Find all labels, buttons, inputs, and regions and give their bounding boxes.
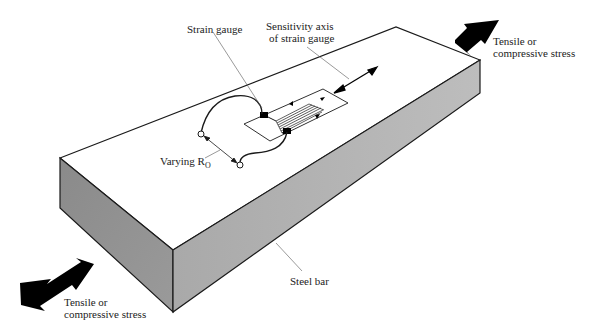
label-steel-bar: Steel bar xyxy=(290,275,329,287)
terminal-2 xyxy=(237,162,243,168)
label-strain-gauge: Strain gauge xyxy=(187,23,242,35)
diagram-canvas: Strain gauge Sensitivity axis of strain … xyxy=(0,0,595,332)
steel-bar xyxy=(60,27,480,312)
label-varying-r: Varying RO xyxy=(160,155,211,172)
solder-pad-1 xyxy=(260,112,268,118)
label-sensitivity-axis-line1: Sensitivity axis xyxy=(266,20,334,32)
terminal-1 xyxy=(198,131,204,137)
label-stress-left-line2: compressive stress xyxy=(64,308,146,320)
label-sensitivity-axis-line2: of strain gauge xyxy=(269,32,334,44)
label-stress-left-line1: Tensile or xyxy=(64,296,108,308)
leader-steel-bar xyxy=(276,243,302,271)
label-varying-r-text: Varying R xyxy=(160,155,205,167)
label-stress-right-line2: compressive stress xyxy=(493,47,575,59)
label-stress-right-line1: Tensile or xyxy=(493,35,537,47)
label-varying-r-subscript: O xyxy=(205,161,211,170)
